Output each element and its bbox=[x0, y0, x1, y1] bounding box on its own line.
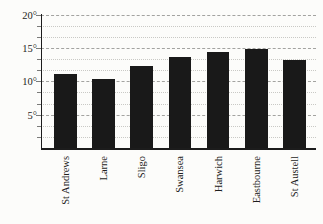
bar bbox=[92, 79, 115, 148]
x-axis-label: Eastbourne bbox=[250, 156, 263, 222]
y-axis-label: 15° bbox=[5, 42, 37, 55]
bar bbox=[207, 52, 230, 148]
x-axis-label: Swansea bbox=[173, 156, 186, 222]
x-axis-label: Harwich bbox=[212, 156, 225, 222]
y-axis-label: 10° bbox=[5, 75, 37, 88]
gridline-major bbox=[41, 48, 317, 49]
x-axis-label-text: Harwich bbox=[212, 156, 225, 192]
bar bbox=[130, 66, 153, 148]
gridline-minor bbox=[41, 26, 317, 27]
temperature-bar-chart: 20°15°10°5°St AndrewsLarneSligoSwanseaHa… bbox=[0, 0, 323, 224]
bar bbox=[283, 60, 306, 149]
y-axis-label: 5° bbox=[5, 109, 37, 122]
gridline-major bbox=[41, 15, 317, 16]
x-axis-label-text: Eastbourne bbox=[250, 156, 263, 203]
y-axis-label: 20° bbox=[5, 9, 37, 22]
gridline-minor bbox=[41, 37, 317, 38]
scanned-page: 20°15°10°5°St AndrewsLarneSligoSwanseaHa… bbox=[0, 0, 323, 224]
x-axis-label: St Austell bbox=[288, 156, 301, 222]
bar bbox=[169, 57, 192, 148]
x-axis-label-text: Sligo bbox=[135, 156, 148, 178]
bar bbox=[245, 49, 268, 148]
x-axis-label-text: Swansea bbox=[173, 156, 186, 193]
x-axis-label: Sligo bbox=[135, 156, 148, 222]
x-axis-label-text: St Austell bbox=[288, 156, 301, 197]
x-axis-label: Larne bbox=[97, 156, 110, 222]
bar bbox=[54, 74, 77, 149]
x-axis-label-text: Larne bbox=[97, 156, 110, 180]
y-axis-line bbox=[41, 14, 42, 149]
x-axis-label-text: St Andrews bbox=[59, 156, 72, 205]
x-axis-label: St Andrews bbox=[59, 156, 72, 222]
